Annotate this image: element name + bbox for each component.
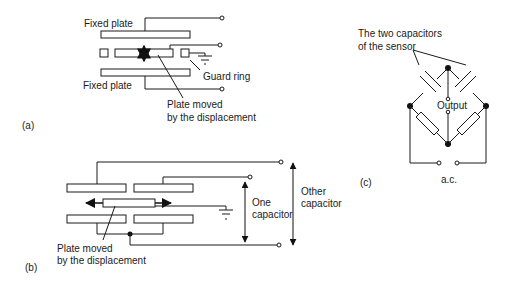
node-bottom: [445, 141, 451, 147]
caption-line-2: of the sensor: [358, 41, 416, 52]
resistor-right-icon: [448, 106, 486, 144]
fixed-plate-bottom-label: Fixed plate: [83, 80, 132, 91]
resistor-left-icon: [410, 106, 448, 144]
fixed-plate-top: [101, 31, 190, 38]
other-capacitor-label-2: capacitor: [301, 198, 342, 209]
top-plate-lead: [145, 18, 220, 31]
moving-plate-label-2: by the displacement: [167, 112, 256, 123]
guard-ring-label: Guard ring: [203, 71, 250, 82]
terminal-inner-top: [248, 175, 252, 179]
other-capacitor-label-1: Other: [301, 186, 327, 197]
moving-plate-lead: [155, 206, 226, 210]
moving-plate-label-2: by the displacement: [57, 255, 146, 266]
ground-icon: [198, 56, 212, 64]
supply-label: a.c.: [441, 174, 457, 185]
caption-leader: [413, 50, 466, 65]
panel-b-label: (b): [25, 262, 37, 273]
guard-ring-left: [100, 49, 108, 57]
moving-plate: [103, 199, 155, 207]
terminal-bottom: [277, 243, 281, 247]
upper-left-plate: [67, 184, 126, 192]
capacitive-sensor-diagram: Fixed plate Guard ring Fixed plate Plate…: [0, 0, 508, 286]
guard-ring-right: [181, 49, 189, 57]
lower-left-plate: [67, 215, 126, 223]
one-capacitor-label-1: One: [252, 197, 271, 208]
output-label: Output: [437, 100, 467, 111]
panel-c: The two capacitors of the sensor: [358, 28, 489, 188]
guard-ring-leader: [190, 60, 200, 70]
panel-b: Plate moved by the displacement One capa…: [25, 160, 342, 273]
upper-right-plate: [134, 184, 193, 192]
terminal-outer-top: [279, 160, 283, 164]
ground-icon: [219, 210, 233, 219]
fixed-plate-top-label: Fixed plate: [84, 18, 133, 29]
supply-terminal-left: [437, 161, 441, 165]
node-top: [445, 65, 451, 71]
one-capacitor-label-2: capacitor: [252, 209, 293, 220]
fixed-plate-bottom: [101, 69, 190, 76]
lower-right-plate: [134, 215, 193, 223]
terminal-middle: [218, 43, 222, 47]
supply-terminal-right: [455, 161, 459, 165]
upper-left-plate-lead: [97, 162, 279, 184]
panel-a-label: (a): [22, 120, 34, 131]
lower-lead: [130, 234, 277, 245]
caption-line-1: The two capacitors: [358, 28, 442, 39]
panel-a: Fixed plate Guard ring Fixed plate Plate…: [22, 16, 256, 131]
panel-c-label: (c): [360, 177, 372, 188]
upper-right-plate-lead: [163, 177, 248, 184]
terminal-bottom: [220, 87, 224, 91]
moving-plate-lead: [170, 45, 218, 49]
moving-plate-label-1: Plate moved: [167, 99, 223, 110]
terminal-top: [220, 16, 224, 20]
moving-plate-label-1: Plate moved: [57, 243, 113, 254]
